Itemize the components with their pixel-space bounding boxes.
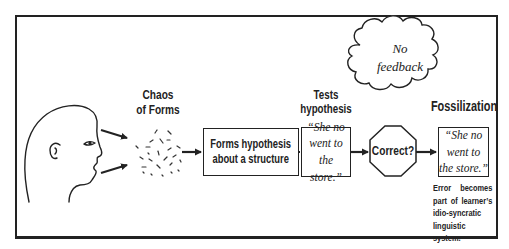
fossil-quote-text: “She no went to the store.” — [439, 127, 488, 177]
test-quote-box: “She no went to the store.” — [301, 127, 351, 177]
learner-head-icon — [25, 106, 102, 202]
fossilization-label: Fossilization — [430, 98, 499, 114]
hypothesis-line2: about a structure — [211, 152, 292, 167]
chaos-label-line2: of Forms — [134, 103, 182, 118]
tests-label-line2: hypothesis — [298, 102, 354, 116]
fossilization-caption: Error becomes part of learner’s idio-syn… — [433, 182, 492, 245]
arrow-head-to-chaos-lower — [101, 165, 127, 173]
fossil-quote-box: “She no went to the store.” — [438, 127, 489, 177]
forms-hypothesis-box: Forms hypothesis about a structure — [203, 128, 299, 176]
tests-label-line1: Tests — [298, 88, 354, 102]
hypothesis-line1: Forms hypothesis — [211, 137, 292, 152]
chaos-of-forms-label: Chaos of Forms — [134, 88, 182, 118]
chaos-particles-icon — [136, 130, 181, 176]
test-quote-text: “She no went to the store.” — [302, 119, 350, 186]
cloud-line1: No — [365, 40, 435, 58]
tests-hypothesis-label: Tests hypothesis — [298, 88, 354, 117]
no-feedback-text: No feedback — [365, 40, 435, 75]
correct-decision-label: Correct? — [370, 144, 415, 159]
chaos-label-line1: Chaos — [134, 88, 182, 103]
arrow-head-to-chaos-upper — [101, 130, 127, 138]
cloud-line2: feedback — [365, 58, 435, 76]
